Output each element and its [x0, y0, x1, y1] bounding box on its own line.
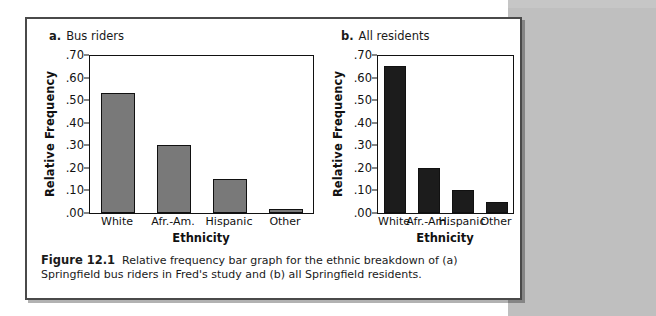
y-tick-label: .30 [354, 138, 372, 152]
bar [486, 202, 507, 213]
bar [213, 179, 248, 213]
y-tick-label: .60 [354, 71, 372, 85]
y-tick-label: .60 [66, 71, 84, 85]
panel-b-bars [378, 55, 514, 213]
y-tick-label: .70 [66, 48, 84, 62]
chart-panel-a: a.Bus riders Relative Frequency .00.10.2… [35, 19, 325, 247]
panel-b-title: All residents [359, 29, 430, 43]
panel-a-heading: a.Bus riders [49, 29, 124, 43]
panel-a-title: Bus riders [66, 29, 124, 43]
panel-a-y-axis-label: Relative Frequency [41, 55, 59, 213]
y-tick-label: .50 [354, 93, 372, 107]
y-tick-label: .10 [66, 183, 84, 197]
y-tick-label: .20 [354, 161, 372, 175]
panel-b-axes [377, 55, 514, 214]
page-gutter-band [508, 0, 656, 316]
panel-b-y-ticks: .00.10.20.30.40.50.60.70 [347, 55, 377, 213]
bar [157, 145, 192, 213]
panel-a-letter: a. [49, 29, 61, 43]
panel-b-letter: b. [341, 29, 354, 43]
panel-b-x-axis-title: Ethnicity [377, 231, 513, 245]
y-tick-label: .10 [354, 183, 372, 197]
x-tick-label: White [101, 215, 133, 228]
y-tick-label: .20 [66, 161, 84, 175]
x-tick-label: Hispanic [206, 215, 253, 228]
figure-card: a.Bus riders Relative Frequency .00.10.2… [25, 17, 522, 300]
y-tick-label: .50 [66, 93, 84, 107]
panel-b-x-labels: WhiteAfr.-Am.HispanicOther [377, 215, 513, 231]
bar [384, 66, 405, 213]
panel-a-axes [89, 55, 314, 214]
panel-b-plot: Relative Frequency .00.10.20.30.40.50.60… [329, 55, 519, 245]
panel-a-bars [90, 55, 314, 213]
panel-a-y-ticks: .00.10.20.30.40.50.60.70 [59, 55, 89, 213]
page-gutter-band-top [508, 0, 656, 8]
chart-panels: a.Bus riders Relative Frequency .00.10.2… [27, 19, 520, 247]
panel-a-x-labels: WhiteAfr.-Am.HispanicOther [89, 215, 313, 231]
panel-a-plot: Relative Frequency .00.10.20.30.40.50.60… [41, 55, 321, 245]
y-tick-label: .40 [354, 116, 372, 130]
x-tick-label: Other [269, 215, 300, 228]
y-tick-label: .00 [66, 206, 84, 220]
x-tick-label: Other [480, 215, 511, 228]
x-tick-label: Afr.-Am. [151, 215, 194, 228]
bar [452, 190, 473, 213]
figure-page: a.Bus riders Relative Frequency .00.10.2… [0, 0, 656, 316]
figure-caption-label: Figure 12.1 [41, 253, 115, 267]
x-tick-label: White [378, 215, 410, 228]
y-tick-label: .70 [354, 48, 372, 62]
chart-panel-b: b.All residents Relative Frequency .00.1… [327, 19, 522, 247]
panel-a-x-axis-title: Ethnicity [89, 231, 313, 245]
bar [418, 168, 439, 213]
bar [269, 209, 304, 214]
y-tick-label: .00 [354, 206, 372, 220]
panel-b-heading: b.All residents [341, 29, 429, 43]
figure-caption: Figure 12.1Relative frequency bar graph … [41, 253, 496, 282]
bar [101, 93, 136, 213]
panel-b-y-axis-label: Relative Frequency [329, 55, 347, 213]
x-tick-label: Hispanic [439, 215, 486, 228]
y-tick-label: .30 [66, 138, 84, 152]
y-tick-label: .40 [66, 116, 84, 130]
